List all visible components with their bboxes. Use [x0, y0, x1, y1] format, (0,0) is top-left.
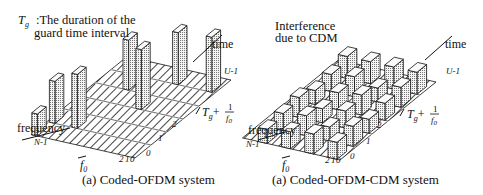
right-annotation-line2: due to CDM	[275, 31, 338, 45]
left-time-tick-0: 0	[146, 148, 151, 158]
svg-text:f0: f0	[226, 113, 233, 125]
left-time-tick-2: 2	[172, 119, 177, 129]
right-freq-tick-1: 1	[331, 155, 336, 165]
right-time-tick-1: 1	[366, 136, 371, 146]
symbol-bar	[72, 66, 86, 128]
right-time-step-label: Tg+ 1 f0	[400, 104, 439, 127]
left-panel: Tg :The duration of the guard time inter…	[17, 13, 238, 187]
svg-text:1: 1	[433, 104, 438, 114]
right-time-tick-0: 0	[350, 151, 355, 161]
svg-text:f0: f0	[431, 115, 438, 127]
left-time-label: time	[212, 37, 233, 51]
left-time-tick-last: U-1	[224, 66, 238, 76]
symbol-bar	[49, 73, 63, 123]
right-bars	[258, 47, 426, 160]
right-freq-tick-last: N-1	[245, 139, 260, 149]
left-time-step-label: Tg+ 1 f0	[196, 102, 234, 125]
right-time-label: time	[445, 37, 466, 51]
left-freq-tick-0: 0	[130, 154, 135, 164]
right-freq-tick-2: 2	[325, 155, 330, 165]
right-frequency-label: frequency	[248, 123, 296, 137]
figure-canvas: Tg :The duration of the guard time inter…	[0, 0, 483, 195]
left-freq-tick-last: N-1	[33, 137, 48, 147]
left-freq-tick-2: 2	[119, 154, 124, 164]
left-frequency-label: frequency	[17, 121, 65, 135]
right-caption: (a) Coded-OFDM-CDM system	[272, 172, 439, 187]
left-annotation-symbol: Tg	[18, 13, 29, 29]
left-time-tick-1: 1	[158, 133, 163, 143]
right-freq-tick-0: 0	[336, 155, 341, 165]
symbol-bar	[123, 32, 137, 90]
right-panel: Interference due to CDM time frequency U…	[243, 19, 467, 187]
symbol-bar	[136, 41, 150, 109]
left-caption: (a) Coded-OFDM system	[82, 172, 215, 187]
symbol-bar	[173, 24, 187, 84]
right-time-tick-2: 2	[377, 120, 382, 130]
svg-text:1: 1	[228, 102, 233, 112]
left-freq-tick-1: 1	[125, 154, 130, 164]
left-annotation-line2: guard time interval	[34, 26, 130, 40]
right-time-tick-last: U-1	[446, 66, 460, 76]
svg-text:Tg+: Tg+	[407, 107, 425, 123]
svg-text:Tg+: Tg+	[202, 105, 220, 121]
left-annotation-line1: :The duration of the	[36, 13, 136, 27]
